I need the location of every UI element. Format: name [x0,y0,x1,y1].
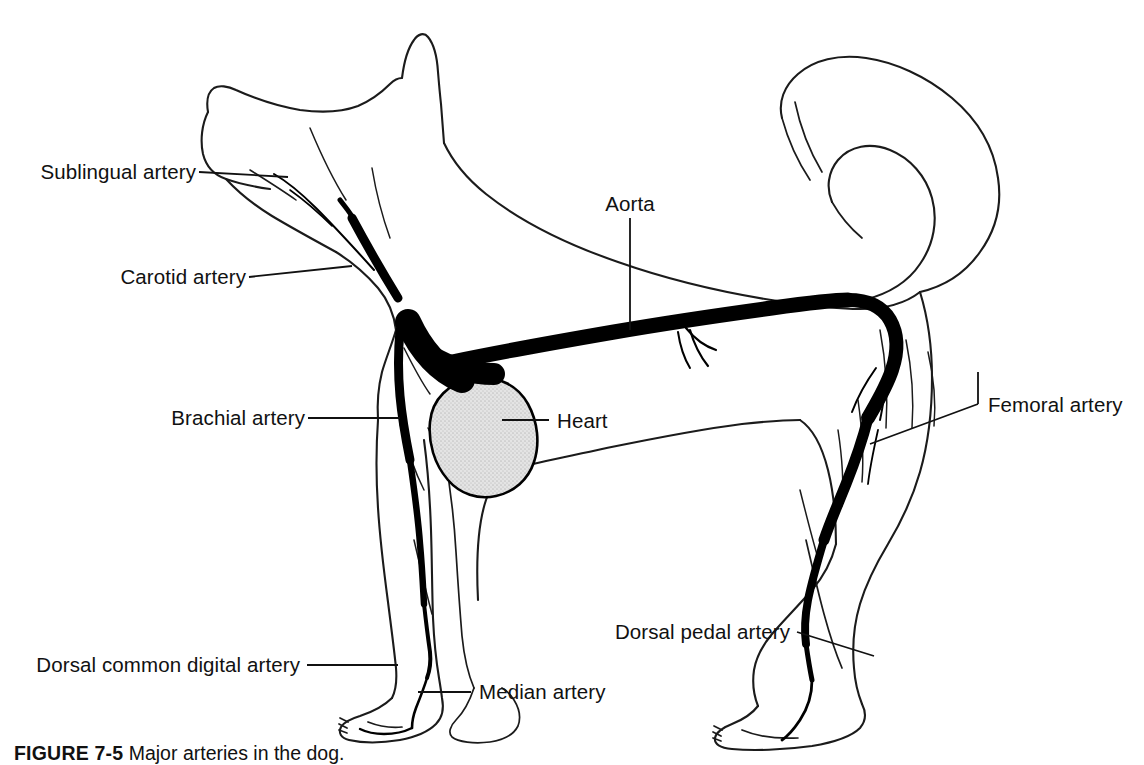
leader-carotid [249,266,352,277]
tail-hair-3 [832,202,862,238]
figure-caption-text: Major arteries in the dog. [129,742,345,764]
throat-outline [336,252,396,330]
foreleg-front-outline [377,420,397,698]
median-artery-distal [412,678,427,728]
aorta-caudal-branch-3 [868,430,878,484]
muzzle-jaw-outline [202,112,270,189]
aorta [452,300,848,362]
fur-detail-head-2 [372,168,390,238]
chest-outline [378,330,396,420]
dorsal-pedal-artery-distal [782,680,812,740]
tail-outer-outline [781,57,999,292]
figure-caption: FIGURE 7-5 Major arteries in the dog. [14,741,1124,765]
label-brachial-artery: Brachial artery [171,406,305,429]
label-carotid-artery: Carotid artery [120,265,246,288]
back-topline [444,143,784,302]
label-median-artery: Median artery [479,680,606,703]
fur-detail-hip-2 [906,340,913,428]
aorta-caudal-curve [848,300,896,418]
tail-inner-outline [829,146,935,300]
label-aorta: Aorta [605,192,655,215]
hindpaw-claw-1 [714,726,722,730]
foreleg-back-outline [424,440,439,678]
sublingual-artery-branch [290,190,332,226]
dorsal-common-digital-artery [360,728,412,734]
forepaw-claw-1 [340,718,348,722]
aorta-branch-3 [690,330,708,366]
label-femoral-artery: Femoral artery [988,393,1123,416]
fur-detail-hock [800,490,818,558]
femoral-artery-mid [805,540,824,644]
head-outline [207,34,444,143]
arterial-system [274,174,896,740]
figure-caption-container: FIGURE 7-5 Major arteries in the dog. [14,741,1124,765]
figure-container: Sublingual artery Carotid artery Brachia… [0,0,1144,765]
label-sublingual-artery: Sublingual artery [40,160,196,183]
median-artery [424,604,430,678]
label-dorsal-common-digital-artery: Dorsal common digital artery [36,653,300,676]
aorta-branch-4 [678,332,690,368]
hindleg-far-outline [806,540,842,668]
label-dorsal-pedal-artery: Dorsal pedal artery [615,620,791,643]
tail-hair-1 [782,118,810,180]
dorsal-pedal-artery [806,644,812,680]
artery-diagram: Sublingual artery Carotid artery Brachia… [0,0,1144,765]
heart-organ [430,378,538,497]
brachial-artery-mid [410,460,424,604]
label-texts: Sublingual artery Carotid artery Brachia… [36,160,1123,703]
figure-number: FIGURE 7-5 [14,742,123,764]
fur-detail-head-1 [310,128,346,200]
carotid-artery-upper-taper [340,200,354,220]
label-heart: Heart [557,409,608,432]
forepaw-toe-line [368,722,402,727]
